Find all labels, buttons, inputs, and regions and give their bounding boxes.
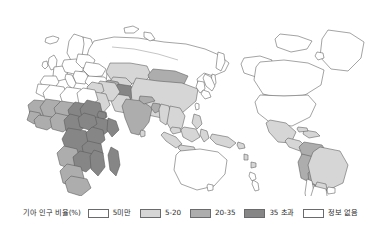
map-canvas bbox=[12, 14, 369, 196]
legend-label-under-5: 5미만 bbox=[113, 209, 131, 216]
legend-label-20-35: 20-35 bbox=[215, 209, 235, 216]
region-arctic-islands bbox=[124, 26, 139, 33]
region-brazil bbox=[308, 147, 348, 191]
region-philippines bbox=[192, 114, 202, 129]
region-papua-new-guinea bbox=[210, 134, 236, 148]
region-solomon-islands bbox=[237, 142, 245, 149]
map-legend: 기아 인구 비율(%) 5미만 5-20 20-35 35 초과 정보 없음 bbox=[0, 203, 381, 223]
region-usa bbox=[255, 95, 316, 126]
region-madagascar bbox=[108, 147, 120, 176]
legend-item-5-20: 5-20 bbox=[140, 209, 181, 218]
legend-item-20-35: 20-35 bbox=[190, 209, 235, 218]
legend-item-over-35: 35 초과 bbox=[244, 209, 294, 218]
region-new-zealand-north bbox=[249, 172, 256, 181]
region-borneo bbox=[181, 127, 200, 142]
region-japan-south bbox=[201, 90, 211, 99]
legend-label-over-35: 35 초과 bbox=[269, 209, 294, 216]
legend-item-no-data: 정보 없음 bbox=[303, 209, 358, 218]
region-iceland bbox=[45, 36, 59, 44]
region-sulawesi bbox=[200, 129, 209, 142]
legend-title: 기아 인구 비율(%) bbox=[23, 209, 81, 216]
eastern-hemisphere-group bbox=[27, 26, 259, 196]
region-mozambique bbox=[90, 150, 105, 176]
region-greenland bbox=[320, 30, 364, 71]
region-new-zealand-south bbox=[252, 180, 259, 191]
legend-swatch-over-35 bbox=[244, 209, 265, 218]
legend-label-no-data: 정보 없음 bbox=[328, 209, 358, 216]
region-tasmania bbox=[207, 184, 213, 191]
region-cuba bbox=[297, 127, 308, 132]
region-ireland bbox=[42, 61, 48, 69]
legend-label-5-20: 5-20 bbox=[165, 209, 181, 216]
region-australia bbox=[174, 149, 227, 190]
legend-swatch-5-20 bbox=[140, 209, 161, 218]
region-sri-lanka bbox=[140, 130, 145, 137]
region-somalia bbox=[107, 118, 119, 137]
region-canada bbox=[254, 60, 324, 99]
region-vanuatu bbox=[244, 154, 248, 160]
region-canada-arctic-islands bbox=[275, 34, 312, 52]
region-malaysia bbox=[170, 127, 181, 134]
world-hunger-map-figure: 기아 인구 비율(%) 5미만 5-20 20-35 35 초과 정보 없음 bbox=[0, 0, 381, 251]
region-uruguay bbox=[327, 187, 335, 194]
region-sumatra bbox=[161, 132, 182, 148]
legend-item-under-5: 5미만 bbox=[88, 209, 131, 218]
region-taiwan bbox=[195, 103, 199, 110]
western-hemisphere-group bbox=[241, 30, 364, 196]
legend-swatch-under-5 bbox=[88, 209, 109, 218]
region-south-africa bbox=[65, 176, 91, 196]
region-fiji bbox=[251, 162, 256, 168]
legend-swatch-no-data bbox=[303, 209, 324, 218]
world-map-svg bbox=[12, 14, 369, 196]
legend-swatch-20-35 bbox=[190, 209, 211, 218]
